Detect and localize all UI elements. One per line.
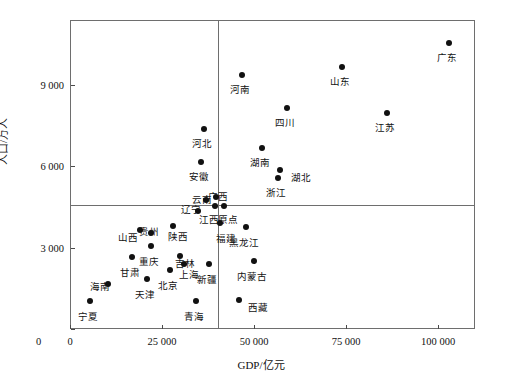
data-point — [251, 258, 257, 264]
y-axis-tick-label: 9 000 — [24, 80, 64, 91]
data-point — [339, 64, 345, 70]
data-point — [275, 175, 281, 181]
vertical-mean-reference-line — [218, 21, 219, 328]
data-point — [87, 298, 93, 304]
data-point-label: 重庆 — [139, 257, 159, 267]
data-point — [148, 243, 154, 249]
data-point-label: 四川 — [275, 118, 295, 128]
data-point-label: 海南 — [90, 282, 110, 292]
data-point — [181, 261, 187, 267]
y-axis-tick-label: 3 000 — [24, 242, 64, 253]
data-point — [193, 298, 199, 304]
data-point-label: 山西 — [118, 233, 138, 243]
data-point — [236, 297, 242, 303]
x-axis-tick-label: 25 000 — [148, 336, 177, 347]
x-axis-tick — [162, 325, 163, 329]
data-point-label: 陕西 — [168, 232, 188, 242]
data-point — [170, 223, 176, 229]
data-point-label: 宁夏 — [78, 312, 98, 322]
x-axis-title: GDP/亿元 — [0, 356, 522, 372]
data-point — [198, 159, 204, 165]
data-point-label: 湖南 — [250, 158, 270, 168]
data-point-label: 天津 — [135, 290, 155, 300]
x-axis-tick — [438, 325, 439, 329]
data-point — [206, 261, 212, 267]
data-point-label: 广东 — [437, 53, 457, 63]
data-point-label: 山东 — [330, 77, 350, 87]
y-axis-tick — [71, 248, 75, 249]
x-axis-tick-label: 50 000 — [240, 336, 269, 347]
data-point — [384, 110, 390, 116]
data-point — [129, 254, 135, 260]
data-point — [277, 167, 283, 173]
data-point-label: 浙江 — [266, 188, 286, 198]
data-point-label: 江西 — [199, 215, 219, 225]
data-point-label: 江苏 — [375, 123, 395, 133]
y-axis-tick-label: 0 — [36, 336, 76, 347]
data-point-label: 安徽 — [189, 172, 209, 182]
y-axis-tick — [71, 85, 75, 86]
y-axis-title: 人口/万人 — [0, 118, 10, 165]
data-point-label: 西藏 — [248, 303, 268, 313]
data-point-label: 河北 — [192, 139, 212, 149]
data-point-label: 湖北 — [291, 173, 311, 183]
data-point — [221, 203, 227, 209]
x-axis-tick-label: 100 000 — [421, 336, 455, 347]
data-point — [144, 276, 150, 282]
data-point — [167, 267, 173, 273]
x-axis-tick-label: 75 000 — [332, 336, 361, 347]
horizontal-mean-reference-line — [71, 205, 474, 206]
data-point-label: 广西 — [208, 192, 228, 202]
data-point-label: 青海 — [184, 312, 204, 322]
data-point — [212, 203, 218, 209]
data-point — [446, 40, 452, 46]
data-point-label: 黑龙江 — [229, 238, 259, 248]
data-point — [259, 145, 265, 151]
data-point — [217, 220, 223, 226]
plot-area: 广东山东江苏河南四川河北湖南湖北安徽浙江云南广西辽宁江西原点福建黑龙江贵州山西陕… — [70, 20, 475, 329]
x-axis-tick — [346, 325, 347, 329]
data-point-label: 河南 — [230, 85, 250, 95]
y-axis-tick-label: 6 000 — [24, 161, 64, 172]
data-point — [201, 126, 207, 132]
data-point-label: 北京 — [158, 281, 178, 291]
data-point — [239, 72, 245, 78]
data-point — [284, 105, 290, 111]
y-axis-tick — [71, 329, 75, 330]
data-point — [243, 224, 249, 230]
data-point-label: 内蒙古 — [237, 272, 267, 282]
scatter-chart-figure: 广东山东江苏河南四川河北湖南湖北安徽浙江云南广西辽宁江西原点福建黑龙江贵州山西陕… — [0, 0, 522, 382]
data-point-label: 新疆 — [197, 275, 217, 285]
data-point-label: 甘肃 — [120, 268, 140, 278]
y-axis-tick — [71, 166, 75, 167]
x-axis-tick — [254, 325, 255, 329]
